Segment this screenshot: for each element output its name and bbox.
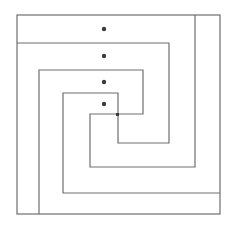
dot-marker: [102, 80, 106, 84]
dot-marker: [102, 54, 106, 58]
junction-marker: [116, 113, 119, 116]
dot-marker: [102, 102, 106, 106]
dot-markers: [102, 27, 106, 106]
spiral-diagram: [0, 0, 234, 234]
diagram-svg: [0, 0, 234, 234]
spiral-path-a: [17, 43, 220, 193]
dot-marker: [102, 27, 106, 31]
